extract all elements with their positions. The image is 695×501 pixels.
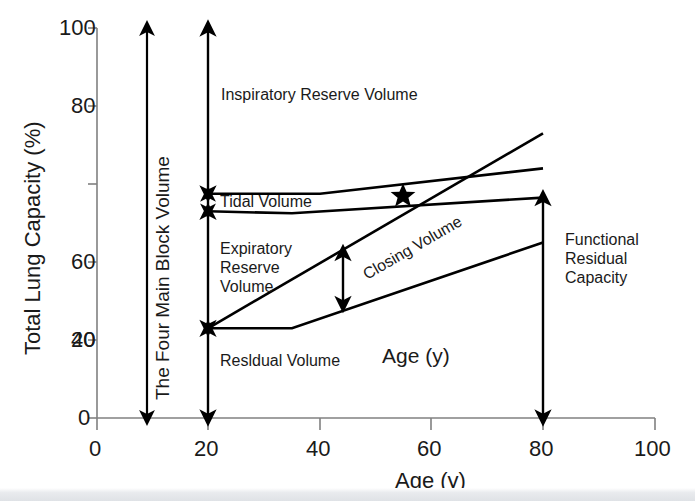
x-tick-80: 80 xyxy=(529,436,553,462)
inspiratory-reserve-volume-label: Inspiratory Reserve Volume xyxy=(221,86,418,105)
x-axis-ticks xyxy=(97,418,655,430)
erv-line-3: Volume xyxy=(220,278,330,297)
y-axis-ticks xyxy=(88,28,97,418)
y-tick-0: 0 xyxy=(78,405,90,431)
x-tick-40: 40 xyxy=(306,436,330,462)
y-axis-title: Total Lung Capacity (%) xyxy=(20,121,46,355)
page-edge-band xyxy=(0,488,695,501)
tidal-volume-label: Tidal Volume xyxy=(220,193,312,212)
data-curves xyxy=(208,133,543,328)
closing-volume-star-marker xyxy=(391,184,416,207)
curve-tidal-top xyxy=(208,168,543,193)
x-tick-100: 100 xyxy=(634,436,671,462)
frc-line-1: Functional xyxy=(565,231,660,250)
y-tick-20: 20 xyxy=(71,327,95,353)
four-main-block-volume-label: The Four Main Block Volume xyxy=(152,156,174,400)
x-tick-20: 20 xyxy=(194,436,218,462)
lung-volumes-figure: 100 80 60 40 20 0 0 20 40 60 80 100 Age … xyxy=(0,0,695,501)
frc-line-2: Residual xyxy=(565,250,660,269)
inner-age-label: Age (y) xyxy=(382,344,450,368)
x-tick-60: 60 xyxy=(417,436,441,462)
residual-volume-label: Resldual Volume xyxy=(220,352,340,371)
y-tick-60: 60 xyxy=(71,249,95,275)
expiratory-reserve-volume-label: Expiratory Reserve Volume xyxy=(220,240,330,297)
y-tick-80: 80 xyxy=(71,93,95,119)
erv-line-1: Expiratory xyxy=(220,240,330,259)
x-tick-0: 0 xyxy=(89,436,101,462)
functional-residual-capacity-label: Functional Residual Capacity xyxy=(565,231,660,288)
erv-line-2: Reserve xyxy=(220,259,330,278)
frc-line-3: Capacity xyxy=(565,269,660,288)
